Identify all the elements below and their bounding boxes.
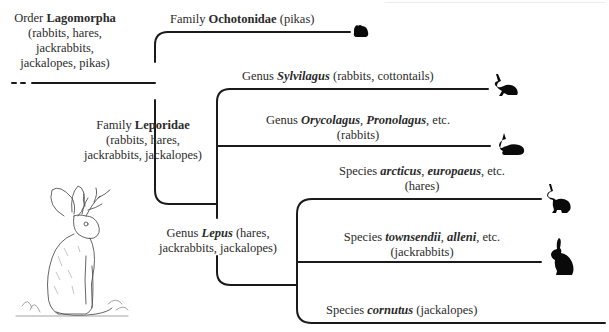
taxon-name: Ochotonidae <box>209 12 277 26</box>
rank-text: Species <box>326 303 364 317</box>
common-names: jackalopes, pikas) <box>4 56 126 71</box>
leporidae-branch-bottom <box>217 256 297 285</box>
taxon-name: Sylvilagus <box>277 69 330 83</box>
suffix-text: , etc. <box>426 113 450 127</box>
common-names: (pikas) <box>280 12 315 26</box>
leporidae-label: Family Leporidae (rabbits, hares, jackra… <box>60 118 226 163</box>
taxon-name: europaeus <box>428 164 481 178</box>
common-names: (jackalopes) <box>416 303 477 317</box>
rabbit-silhouette-icon <box>496 133 526 157</box>
cottontail-silhouette-icon <box>492 72 520 98</box>
suffix-text: , etc. <box>481 164 505 178</box>
taxon-name: cornutus <box>367 303 413 317</box>
rank-text: Genus <box>166 226 198 240</box>
taxon-name: Lepus <box>202 226 233 240</box>
taxon-name: arcticus <box>380 164 421 178</box>
sylvilagus-label: Genus Sylvilagus (rabbits, cottontails) <box>242 69 434 84</box>
taxon-name: alleni <box>447 230 476 244</box>
common-names: jackrabbits, jackalopes) <box>136 241 300 256</box>
separator: , <box>360 113 363 127</box>
pika-silhouette-icon <box>352 24 370 38</box>
common-names: (rabbits, hares, <box>4 26 126 41</box>
rank-text: Order <box>14 11 43 25</box>
suffix-text: , etc. <box>476 230 500 244</box>
order-label: Order Lagomorpha (rabbits, hares, jackra… <box>4 11 126 71</box>
lepus-label: Genus Lepus (hares, jackrabbits, jackalo… <box>136 226 300 256</box>
common-names: jackrabbits, <box>4 41 126 56</box>
taxon-name: Leporidae <box>135 118 190 132</box>
common-names: (hares) <box>316 179 528 194</box>
taxon-name: townsendii <box>385 230 441 244</box>
rank-text: Family <box>170 12 205 26</box>
jackalope-illustration <box>12 176 132 326</box>
ochotonidae-label: Family Ochotonidae (pikas) <box>170 12 314 27</box>
common-names: (hares, <box>236 226 270 240</box>
common-names: (rabbits, hares, <box>60 133 226 148</box>
rank-text: Family <box>96 118 131 132</box>
common-names: (rabbits, cottontails) <box>333 69 434 83</box>
rank-text: Species <box>344 230 382 244</box>
taxon-name: Pronolagus <box>366 113 426 127</box>
order-branch-top <box>155 32 168 62</box>
taxon-name: Orycolagus <box>301 113 360 127</box>
separator: , <box>441 230 444 244</box>
arcticus-label: Species arcticus, europaeus, etc. (hares… <box>316 164 528 194</box>
common-names: jackrabbits, jackalopes) <box>60 148 226 163</box>
rank-text: Genus <box>266 113 298 127</box>
separator: , <box>421 164 424 178</box>
townsendii-label: Species townsendii, alleni, etc. (jackra… <box>316 230 528 260</box>
cornutus-label: Species cornutus (jackalopes) <box>326 303 477 318</box>
common-names: (jackrabbits) <box>316 245 528 260</box>
hare-silhouette-icon <box>544 183 574 215</box>
rank-text: Genus <box>242 69 274 83</box>
taxon-name: Lagomorpha <box>46 11 115 25</box>
jackrabbit-silhouette-icon <box>548 238 576 278</box>
orycolagus-label: Genus Orycolagus, Pronolagus, etc. (rabb… <box>240 113 476 143</box>
rank-text: Species <box>339 164 377 178</box>
common-names: (rabbits) <box>240 128 476 143</box>
